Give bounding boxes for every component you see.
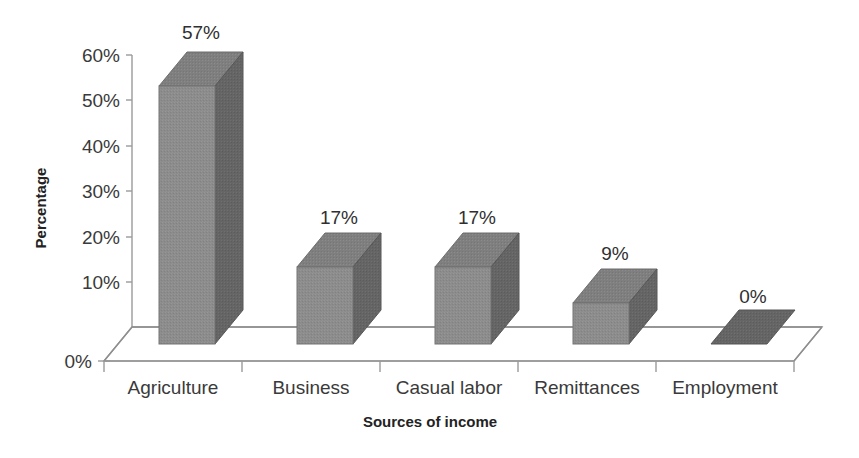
- data-label-remittances: 9%: [601, 243, 629, 264]
- y-tick-label-10: 10%: [82, 272, 120, 293]
- bar-business-front-face: [297, 267, 353, 344]
- category-label-employment: Employment: [672, 377, 778, 398]
- bar-agriculture-side-face: [215, 52, 243, 344]
- y-tick-label-50: 50%: [82, 90, 120, 111]
- x-axis-title: Sources of income: [363, 413, 497, 430]
- bar-agriculture-front-face: [159, 86, 215, 344]
- data-label-casual-labor: 17%: [458, 207, 496, 228]
- chart-container: 60% 50% 40% 30% 20% 10% 0% Percentage: [0, 0, 859, 458]
- bar-remittances-front-face: [573, 303, 629, 344]
- y-tick-label-60: 60%: [82, 45, 120, 66]
- y-tick-label-20: 20%: [82, 227, 120, 248]
- y-tick-label-40: 40%: [82, 136, 120, 157]
- bar-casual-labor-front-face: [435, 267, 491, 344]
- bar-chart-svg: 60% 50% 40% 30% 20% 10% 0% Percentage: [0, 0, 859, 458]
- data-label-business: 17%: [320, 207, 358, 228]
- category-label-casual-labor: Casual labor: [396, 377, 503, 398]
- data-label-employment: 0%: [739, 286, 767, 307]
- data-label-agriculture: 57%: [182, 22, 220, 43]
- category-label-remittances: Remittances: [534, 377, 640, 398]
- bar-agriculture[interactable]: 57%: [159, 22, 243, 344]
- category-label-business: Business: [272, 377, 349, 398]
- y-axis-title: Percentage: [32, 168, 49, 249]
- y-tick-label-0: 0%: [65, 351, 93, 372]
- category-label-agriculture: Agriculture: [128, 377, 219, 398]
- y-tick-label-30: 30%: [82, 181, 120, 202]
